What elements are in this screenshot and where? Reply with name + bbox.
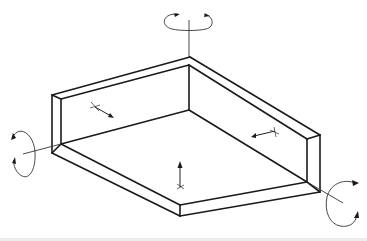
arrow-icon: [254, 131, 275, 136]
right-wall-vector: [251, 127, 279, 138]
tray-diagram: [0, 0, 367, 241]
arrow-icon: [95, 107, 111, 116]
floor-vector: [177, 161, 184, 189]
arrowhead-icon: [174, 14, 180, 18]
arrowhead-icon: [354, 211, 359, 218]
arrowhead-icon: [352, 180, 359, 186]
left-back-wall: [52, 57, 190, 153]
arrowhead-icon: [12, 157, 16, 164]
floor-plate: [52, 144, 320, 216]
right-back-wall: [189, 57, 320, 192]
rotate-arrow-icon: [326, 181, 357, 226]
vertical-rotation-axis: [164, 14, 212, 58]
left-wall-vector: [90, 102, 114, 118]
arrowhead-icon: [108, 113, 114, 118]
arrowhead-icon: [251, 133, 256, 138]
right-rotation-axis: [307, 180, 359, 226]
arrowhead-icon: [178, 161, 183, 168]
